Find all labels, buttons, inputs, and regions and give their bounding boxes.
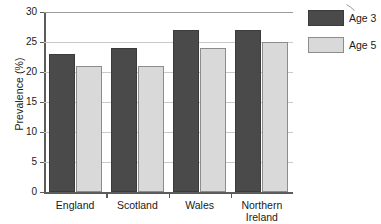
y-axis-tick xyxy=(40,162,44,163)
y-axis-tick-label: 10 xyxy=(26,127,37,137)
bar-northern-ireland-age-3 xyxy=(235,30,261,192)
y-axis-tick xyxy=(40,102,44,103)
bar-england-age-5 xyxy=(76,66,102,192)
x-axis-category-label: Northern Ireland xyxy=(221,199,303,223)
bar-wales-age-5 xyxy=(200,48,226,192)
legend-label-age-3: Age 3 xyxy=(349,13,376,24)
x-axis-tick xyxy=(106,193,107,198)
y-axis-tick xyxy=(40,72,44,73)
legend-item-age-5: Age 5 xyxy=(308,37,381,58)
y-axis-tick xyxy=(40,12,44,13)
bar-northern-ireland-age-5 xyxy=(262,42,288,192)
legend-swatch-age-5 xyxy=(308,37,344,53)
y-axis-tick xyxy=(40,192,44,193)
y-axis-tick-label: 15 xyxy=(26,97,37,107)
bar-scotland-age-3 xyxy=(111,48,137,192)
legend: Age 3 Age 5 xyxy=(308,10,381,64)
legend-item-age-3: Age 3 xyxy=(308,10,381,31)
y-axis-tick-label: 0 xyxy=(31,187,37,197)
x-axis-tick xyxy=(231,193,232,198)
y-axis-tick-label: 20 xyxy=(26,67,37,77)
bar-chart: Prevalence (%) 051015202530EnglandScotla… xyxy=(0,0,381,224)
x-axis-tick xyxy=(169,193,170,198)
y-axis-tick-label: 30 xyxy=(26,7,37,17)
y-axis-tick-label: 25 xyxy=(26,37,37,47)
y-axis-title: Prevalence (%) xyxy=(13,34,25,154)
y-axis-tick-label: 5 xyxy=(31,157,37,167)
bar-wales-age-3 xyxy=(173,30,199,192)
legend-label-age-5: Age 5 xyxy=(349,40,376,51)
bar-england-age-3 xyxy=(49,54,75,192)
pencil-stroke-icon xyxy=(346,4,356,11)
legend-swatch-age-3 xyxy=(308,10,344,26)
bar-scotland-age-5 xyxy=(138,66,164,192)
y-axis-tick xyxy=(40,132,44,133)
plot-area: 051015202530EnglandScotlandWalesNorthern… xyxy=(44,12,293,192)
y-axis-tick xyxy=(40,42,44,43)
y-gridline xyxy=(44,12,293,13)
